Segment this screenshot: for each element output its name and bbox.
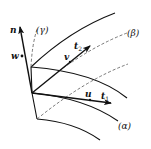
label-gamma: (γ)	[36, 25, 49, 35]
label-w: w	[11, 51, 19, 61]
normal-vector-n	[20, 27, 32, 93]
label-u: u	[85, 89, 92, 99]
label-t1: t1	[101, 91, 109, 102]
u-point	[89, 99, 91, 101]
label-alpha: (α)	[118, 121, 132, 131]
tangent-vector-v-t2	[32, 46, 90, 93]
lower-dashed-curve	[37, 64, 128, 119]
label-n: n	[10, 25, 17, 35]
label-t2: t2	[74, 41, 82, 52]
w-point	[21, 55, 24, 58]
label-v: v	[64, 52, 70, 62]
bottom-curve	[37, 119, 100, 140]
tangent-vector-u-t1	[32, 93, 111, 103]
label-beta: (β)	[127, 28, 140, 38]
surface-coordinate-diagram: n w (γ) (β) (α) v t2 u t1	[0, 0, 151, 149]
